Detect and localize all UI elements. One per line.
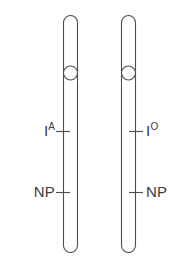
locus-label-left-allele-superscript: A <box>48 121 55 132</box>
chromosome-right <box>122 16 144 253</box>
chromosome-right-centromere <box>122 66 136 80</box>
locus-label-right-np: NP <box>146 184 191 199</box>
chromosome-diagram: IA NP IO NP <box>0 0 194 272</box>
chromosome-right-body <box>122 16 136 253</box>
locus-label-right-allele-superscript: O <box>150 121 158 132</box>
locus-label-right-np-text: NP <box>146 183 167 200</box>
chromosome-left <box>56 16 78 253</box>
chromosome-left-body <box>64 16 78 253</box>
locus-label-left-np: NP <box>4 184 55 199</box>
locus-label-left-np-text: NP <box>34 183 55 200</box>
locus-label-right-allele: IO <box>146 123 191 138</box>
chromosome-left-centromere <box>64 66 78 80</box>
locus-label-left-allele: IA <box>10 123 55 138</box>
